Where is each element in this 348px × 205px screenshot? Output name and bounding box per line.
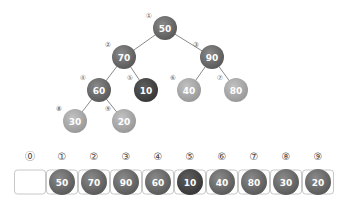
binary-tree-diagram: 50①70②90③60④10⑤40⑥80⑦30⑧20⑨ ⓪①50②70③90④6…: [0, 0, 348, 205]
array-cell: ①50: [47, 151, 78, 196]
array-index: ⑦: [250, 151, 259, 162]
array-value: 10: [184, 178, 197, 188]
node-index: ⑨: [105, 105, 111, 113]
node-value: 60: [93, 86, 106, 96]
array-cell: ③90: [111, 151, 142, 196]
tree-node: 40⑥: [170, 74, 201, 102]
node-index: ⑤: [127, 74, 133, 82]
node-index: ③: [193, 41, 199, 49]
array-cell: ②70: [79, 151, 110, 196]
node-value: 80: [230, 86, 243, 96]
array-index: ⑨: [314, 151, 323, 162]
node-value: 50: [159, 24, 172, 34]
node-value: 30: [69, 117, 82, 127]
array-cell: ⑦80: [239, 151, 270, 196]
array-slot: [15, 170, 46, 194]
node-value: 40: [183, 86, 196, 96]
node-index: ④: [80, 74, 86, 82]
tree-edges: [75, 28, 236, 121]
node-value: 10: [140, 86, 153, 96]
array-index: ②: [90, 151, 99, 162]
array-value: 50: [56, 178, 69, 188]
array-representation: ⓪①50②70③90④60⑤10⑥40⑦80⑧30⑨20: [15, 151, 334, 196]
tree-node: 80⑦: [217, 74, 248, 102]
node-index: ①: [146, 12, 152, 20]
tree-node: 30⑧: [56, 105, 87, 133]
array-value: 70: [88, 178, 101, 188]
array-value: 60: [152, 178, 165, 188]
array-value: 20: [312, 178, 325, 188]
array-index: ⓪: [25, 151, 35, 162]
array-index: ⑤: [186, 151, 195, 162]
array-cell: ④60: [143, 151, 174, 196]
array-value: 30: [280, 178, 293, 188]
tree-node: 90③: [193, 41, 224, 69]
tree-node: 50①: [146, 12, 177, 40]
array-cell: ⑧30: [271, 151, 302, 196]
node-value: 90: [206, 53, 219, 63]
node-index: ②: [105, 41, 111, 49]
array-index: ④: [154, 151, 163, 162]
tree-node: 10⑤: [127, 74, 158, 102]
node-index: ⑧: [56, 105, 62, 113]
array-value: 90: [120, 178, 133, 188]
tree-nodes: 50①70②90③60④10⑤40⑥80⑦30⑧20⑨: [56, 12, 248, 133]
array-index: ⑧: [282, 151, 291, 162]
array-index: ⑥: [218, 151, 227, 162]
array-value: 40: [216, 178, 229, 188]
array-index: ①: [58, 151, 67, 162]
array-value: 80: [248, 178, 261, 188]
node-index: ⑦: [217, 74, 223, 82]
node-value: 20: [118, 117, 131, 127]
array-cell: ⑥40: [207, 151, 238, 196]
tree-node: 70②: [105, 41, 136, 69]
tree-node: 20⑨: [105, 105, 136, 133]
node-value: 70: [118, 53, 131, 63]
tree-node: 60④: [80, 74, 111, 102]
array-index: ③: [122, 151, 131, 162]
array-cell: ⑨20: [303, 151, 334, 196]
node-index: ⑥: [170, 74, 176, 82]
array-cell: ⓪: [15, 151, 46, 195]
array-cell: ⑤10: [175, 151, 206, 196]
